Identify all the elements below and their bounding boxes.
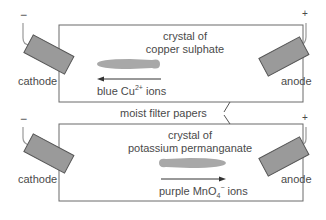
bottom-cathode-sign: − [20, 113, 27, 125]
bottom-ion-suffix: ions [224, 185, 247, 197]
filter-paper-pointer-top [224, 102, 230, 112]
top-ion-suffix: ions [143, 85, 166, 97]
bottom-crystal-label-line2: potassium permanganate [120, 143, 260, 154]
top-cathode-sign: − [20, 9, 27, 21]
top-crystal-label-line2: copper sulphate [130, 44, 240, 55]
top-ion-stain [97, 59, 160, 69]
top-cathode-wire [23, 23, 30, 45]
top-ion-charge: 2+ [135, 84, 143, 91]
bottom-ion-prefix: purple MnO [159, 185, 216, 197]
filter-paper-pointer-bottom [224, 115, 230, 124]
top-cathode-label: cathode [18, 76, 57, 87]
bottom-ion-label: purple MnO4− ions [159, 186, 248, 197]
top-crystal-label-line1: crystal of [130, 31, 240, 42]
filter-paper-label: moist filter papers [120, 108, 207, 119]
bottom-anode-sign: + [302, 113, 308, 123]
bottom-anode-label: anode [281, 174, 312, 185]
bottom-ion-subscript: 4 [216, 192, 220, 199]
top-anode-sign: + [302, 9, 308, 19]
top-anode-label: anode [281, 76, 312, 87]
top-ion-prefix: blue Cu [97, 85, 135, 97]
top-ion-label: blue Cu2+ ions [97, 86, 166, 97]
bottom-cathode-label: cathode [18, 174, 57, 185]
bottom-crystal-label-line1: crystal of [135, 130, 245, 141]
bottom-ion-stain [159, 158, 226, 168]
